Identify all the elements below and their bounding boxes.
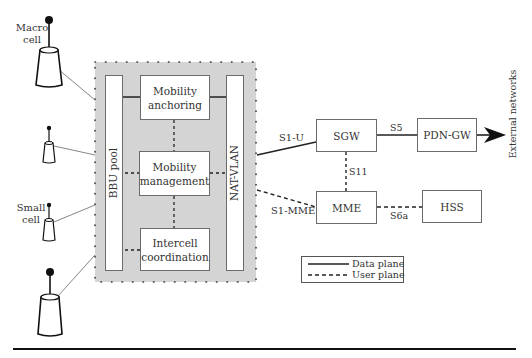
mobility-management-line2: management xyxy=(140,174,209,188)
mme-box: MME xyxy=(316,191,377,224)
bbu-pool-label: BBU pool xyxy=(107,123,121,223)
mobility-anchoring-box: Mobility anchoring xyxy=(140,75,210,120)
link-small-cell-1 xyxy=(54,146,95,155)
macro-cell-antenna-icon xyxy=(38,268,62,336)
mobility-anchoring-line2: anchoring xyxy=(148,98,202,112)
external-networks-label: External networks xyxy=(507,64,519,164)
mobility-management-line1: Mobility xyxy=(140,160,209,174)
pdn-gw-box: PDN-GW xyxy=(417,118,477,152)
intercell-line1: Intercell xyxy=(141,236,208,250)
small-cell-label: Small cell xyxy=(14,202,48,226)
small-cell-label-line1: Small xyxy=(14,202,48,214)
mobility-management-box: Mobility management xyxy=(139,151,210,196)
link-macro-cell xyxy=(58,69,95,100)
s6a-label: S6a xyxy=(390,210,408,222)
mobility-anchoring-line1: Mobility xyxy=(148,84,202,98)
small-cell-antenna-icon xyxy=(43,126,55,163)
macro-cell-label-line1: Macro xyxy=(15,22,49,34)
link-macro-cell-2 xyxy=(58,255,95,296)
s1mme-label: S1-MME xyxy=(271,205,315,217)
link-small-cell-2 xyxy=(54,205,95,222)
intercell-line2: coordination xyxy=(141,250,208,264)
s1u-label: S1-U xyxy=(279,132,304,144)
s11-label: S11 xyxy=(349,166,368,178)
hss-box: HSS xyxy=(422,190,482,223)
macro-cell-label-line2: cell xyxy=(15,34,49,46)
intercell-coordination-box: Intercell coordination xyxy=(140,228,210,271)
small-cell-label-line2: cell xyxy=(14,214,48,226)
s5-label: S5 xyxy=(390,122,403,134)
legend-user-plane: User plane xyxy=(352,269,405,281)
sgw-box: SGW xyxy=(316,119,377,152)
diagram-canvas xyxy=(0,0,532,358)
macro-cell-label: Macro cell xyxy=(15,22,49,46)
nat-vlan-label: NAT-VLAN xyxy=(228,123,242,223)
